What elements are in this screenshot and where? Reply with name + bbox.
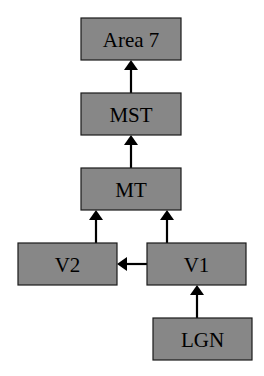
- visual-pathway-diagram: Area 7MSTMTV2V1LGN: [0, 0, 264, 376]
- node-label: Area 7: [103, 28, 160, 52]
- node-label: LGN: [181, 328, 224, 352]
- arrow-v1-to-mt: [160, 210, 174, 243]
- node-v2: V2: [18, 243, 117, 285]
- node-label: MST: [109, 103, 152, 127]
- node-lgn: LGN: [153, 318, 252, 360]
- arrow-mst-to-area7: [124, 60, 138, 93]
- arrowhead-icon: [117, 257, 127, 271]
- arrowhead-icon: [124, 135, 138, 145]
- arrowhead-icon: [89, 210, 103, 220]
- arrowhead-icon: [124, 60, 138, 70]
- node-area7: Area 7: [81, 18, 181, 60]
- arrow-v1-to-v2: [117, 257, 147, 271]
- node-label: MT: [115, 178, 147, 202]
- node-mt: MT: [81, 168, 181, 210]
- arrow-v2-to-mt: [89, 210, 103, 243]
- arrow-lgn-to-v1: [190, 285, 204, 318]
- node-label: V2: [55, 253, 81, 277]
- node-label: V1: [184, 253, 210, 277]
- node-v1: V1: [147, 243, 246, 285]
- node-mst: MST: [81, 93, 181, 135]
- arrowhead-icon: [190, 285, 204, 295]
- arrowhead-icon: [160, 210, 174, 220]
- arrow-mt-to-mst: [124, 135, 138, 168]
